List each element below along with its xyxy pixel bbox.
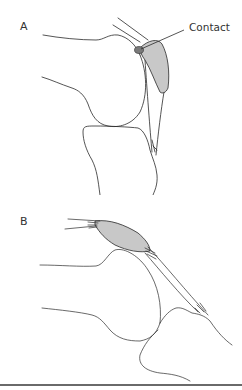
knee-extended-diagram bbox=[0, 195, 242, 385]
femur-outline-top bbox=[43, 35, 140, 55]
patellar-tendon-inner bbox=[145, 60, 152, 152]
tibia-plateau bbox=[160, 308, 232, 345]
quadriceps-shaded bbox=[95, 221, 150, 252]
patellar-tendon-inner bbox=[145, 253, 198, 312]
knee-flexed-diagram bbox=[0, 0, 242, 195]
patellar-tendon-outer bbox=[148, 247, 208, 315]
panel-a: A Contact bbox=[0, 0, 242, 195]
femoral-condyle bbox=[42, 308, 160, 341]
quad-tendon-upper bbox=[68, 219, 100, 221]
contact-point bbox=[135, 47, 144, 54]
bottom-rule bbox=[0, 384, 242, 386]
tibia-outline bbox=[83, 126, 157, 195]
femoral-condyle bbox=[42, 55, 146, 127]
tibia-outline bbox=[140, 330, 190, 381]
patellar-tendon-outer bbox=[156, 92, 164, 155]
panel-b: B bbox=[0, 195, 242, 385]
femur-outline-top bbox=[40, 249, 161, 323]
patella-shaded bbox=[140, 41, 169, 93]
